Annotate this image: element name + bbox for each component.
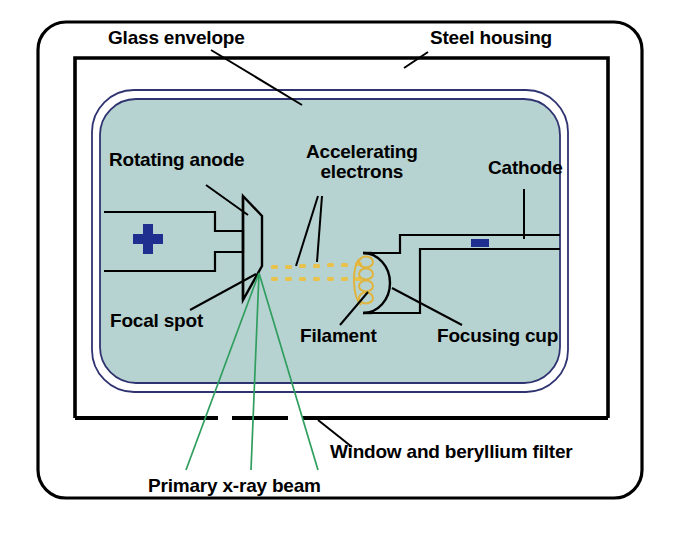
label-steel-housing: Steel housing — [430, 28, 552, 48]
label-focusing-cup: Focusing cup — [437, 326, 558, 346]
label-accelerating-electrons-line1: Accelerating — [306, 142, 418, 162]
label-window-and-beryllium-filter: Window and beryllium filter — [330, 442, 573, 462]
label-glass-envelope: Glass envelope — [108, 28, 245, 48]
label-accelerating-electrons: Accelerating electrons — [306, 142, 418, 182]
label-cathode: Cathode — [488, 158, 563, 178]
diagram-canvas — [0, 0, 680, 544]
label-filament: Filament — [300, 326, 377, 346]
label-accelerating-electrons-line2: electrons — [306, 162, 418, 182]
xray-tube-diagram: Glass envelope Steel housing Rotating an… — [0, 0, 680, 544]
label-rotating-anode: Rotating anode — [109, 150, 244, 170]
cathode-polarity-symbol — [471, 239, 489, 247]
label-primary-xray-beam: Primary x-ray beam — [148, 476, 321, 496]
label-focal-spot: Focal spot — [110, 311, 203, 331]
